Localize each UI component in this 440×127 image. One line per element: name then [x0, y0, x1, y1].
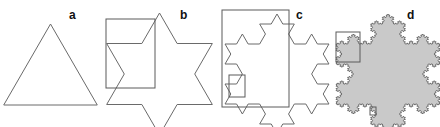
star-shape [107, 13, 213, 127]
zoom-box [106, 19, 155, 88]
zoom-box-large [222, 10, 289, 107]
panel-b: b [106, 8, 212, 127]
triangle-shape [4, 24, 98, 105]
panel-a-label: a [69, 8, 76, 22]
zoom-box-small [229, 75, 245, 97]
panel-b-label: b [180, 8, 187, 22]
koch-snowflake-figure: a b c d [0, 0, 440, 127]
panel-d-label: d [407, 8, 414, 22]
koch-snowflake-shape [336, 14, 440, 127]
panel-d: d [336, 8, 440, 127]
koch-iteration-2-shape [225, 14, 329, 127]
panel-c-label: c [296, 8, 303, 22]
panel-c: c [222, 8, 329, 127]
panel-a: a [4, 8, 98, 105]
